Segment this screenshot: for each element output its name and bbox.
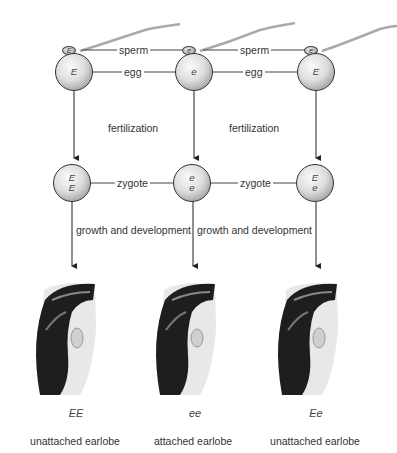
head-illustration-2 bbox=[156, 283, 216, 395]
zygote-cell-1: E E bbox=[53, 164, 91, 202]
egg-label-1: egg bbox=[122, 66, 144, 78]
growth-label-1: growth and development bbox=[74, 224, 193, 236]
head-illustration-3 bbox=[278, 283, 338, 395]
zygote-allele: e bbox=[189, 183, 194, 193]
sperm-label-2: sperm bbox=[238, 44, 271, 56]
phenotype-3: unattached earlobe bbox=[255, 435, 375, 447]
sperm-label-1: sperm bbox=[117, 44, 150, 56]
zygote-cell-2: e e bbox=[173, 164, 211, 202]
zygote-label-1: zygote bbox=[115, 177, 150, 189]
egg-cell-2: e bbox=[175, 53, 213, 91]
genotype-2: ee bbox=[165, 407, 225, 419]
egg-allele-3: E bbox=[313, 67, 319, 77]
egg-allele-1: E bbox=[71, 67, 77, 77]
zygote-allele: e bbox=[312, 183, 317, 193]
genotype-3: Ee bbox=[286, 407, 346, 419]
phenotype-2: attached earlobe bbox=[133, 435, 253, 447]
genotype-1: EE bbox=[46, 407, 106, 419]
zygote-label-2: zygote bbox=[238, 177, 273, 189]
phenotype-1: unattached earlobe bbox=[15, 435, 135, 447]
egg-label-2: egg bbox=[243, 66, 265, 78]
fertilization-label-2: fertilization bbox=[227, 122, 281, 134]
zygote-cell-3: E e bbox=[296, 164, 334, 202]
growth-label-2: growth and development bbox=[195, 224, 314, 236]
head-illustration-1 bbox=[36, 283, 96, 395]
egg-cell-1: E bbox=[55, 53, 93, 91]
fertilization-label-1: fertilization bbox=[106, 122, 160, 134]
zygote-allele: E bbox=[69, 183, 75, 193]
egg-cell-3: E bbox=[297, 53, 335, 91]
egg-allele-2: e bbox=[191, 67, 196, 77]
